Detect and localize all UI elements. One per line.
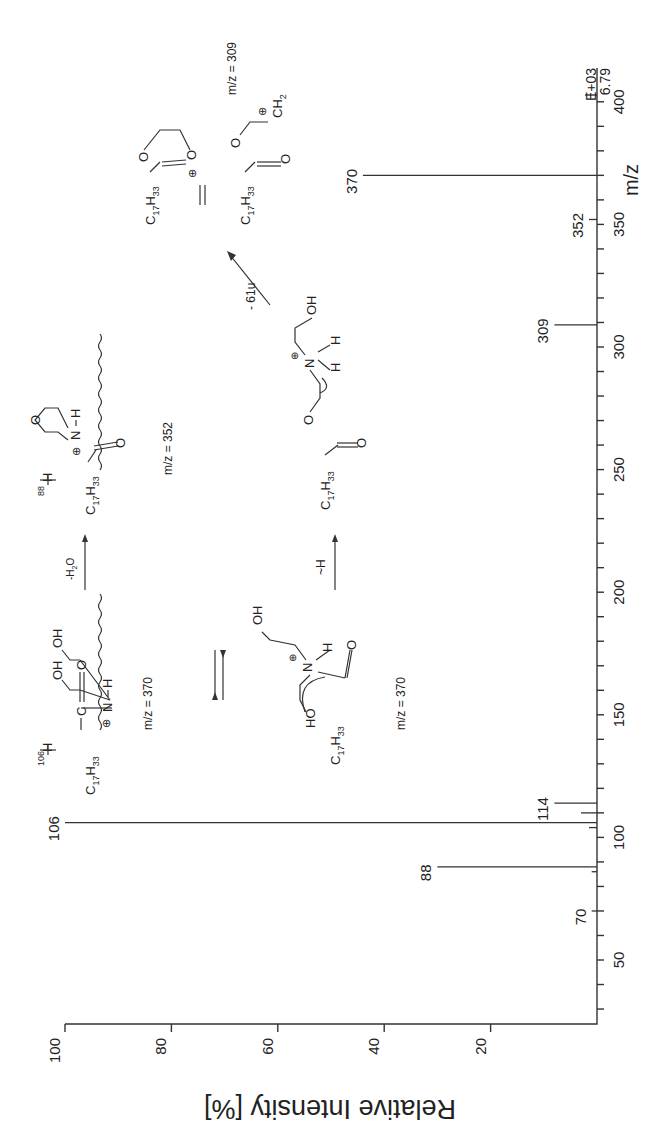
svg-text:O: O	[228, 138, 243, 148]
svg-text:C17H33: C17H33	[143, 186, 161, 225]
mz-tick-label: 50	[610, 952, 627, 969]
svg-text:⊕: ⊕	[100, 719, 112, 728]
svg-text:106: 106	[36, 751, 46, 766]
peak-label: 88	[417, 864, 434, 881]
svg-text:C17H33: C17H33	[238, 186, 256, 225]
scale-value: 6.79	[597, 68, 613, 95]
structure-309-dioxolanium: C17H33 O O ⊕ C17H33 O O CH2 ⊕ m/z = 309	[136, 42, 293, 225]
chain-label: C17H33	[83, 756, 101, 795]
intensity-tick-label: 100	[46, 1038, 63, 1063]
svg-text:CH2: CH2	[270, 94, 288, 118]
svg-text:H: H	[68, 409, 83, 418]
peak-label: 352	[569, 213, 586, 238]
figure: 50100150200250300350400 20406080100 7088…	[0, 0, 658, 1147]
svg-text:C17H33: C17H33	[318, 471, 336, 510]
svg-text:O: O	[113, 438, 128, 448]
peak-label: 106	[45, 816, 62, 841]
structure-ester-ammonium: C17H33 O O N ⊕ H H OH	[289, 296, 369, 511]
mz-tick-label: 300	[610, 334, 627, 359]
svg-text:O: O	[301, 415, 316, 425]
arrow-hydrogen-shift: ~H	[314, 534, 338, 590]
intensity-tick-label: 20	[472, 1038, 489, 1055]
svg-text:⊕: ⊕	[289, 352, 300, 360]
svg-text:N: N	[300, 663, 315, 672]
svg-text:88: 88	[36, 486, 46, 496]
svg-text:OH: OH	[304, 296, 319, 316]
mz-tick-label: 150	[610, 702, 627, 727]
mz-axis-title: m/z	[620, 164, 642, 196]
axis-frame	[65, 68, 597, 1024]
svg-text:O: O	[184, 150, 199, 160]
svg-text:H: H	[320, 643, 335, 652]
svg-text:O: O	[354, 438, 369, 448]
svg-text:⊕: ⊕	[70, 447, 82, 456]
intensity-tick-label: 40	[365, 1038, 382, 1055]
mz-label-352: m/z = 352	[161, 422, 175, 475]
svg-text:O: O	[344, 640, 359, 650]
intensity-tick-label: 80	[152, 1038, 169, 1055]
intensity-tick-label: 60	[259, 1038, 276, 1055]
svg-text:H: H	[328, 363, 343, 372]
mz-label-370b: m/z = 370	[394, 677, 408, 730]
mz-tick-label: 250	[610, 457, 627, 482]
svg-text:H: H	[100, 679, 115, 688]
structure-352-morpholinium: C17H33 O N ⊕ H O H 88 m/z = 352	[28, 334, 175, 515]
svg-text:N: N	[68, 431, 83, 440]
mass-spectrum-chart: 50100150200250300350400 20406080100 7088…	[0, 0, 658, 1147]
mz-label-370: m/z = 370	[141, 677, 155, 730]
svg-text:-H2O: -H2O	[65, 558, 78, 580]
arrow-loss-water: -H2O	[65, 534, 88, 590]
svg-text:N: N	[302, 359, 317, 368]
peak-label: 114	[534, 797, 551, 821]
mz-label-309: m/z = 309	[225, 42, 239, 95]
svg-text:C17H33: C17H33	[83, 476, 101, 515]
svg-text:O: O	[28, 415, 43, 425]
svg-text:H: H	[328, 336, 343, 345]
svg-text:- 61u: - 61u	[244, 283, 258, 310]
svg-text:OH: OH	[250, 606, 265, 626]
peak-label: 370	[343, 169, 360, 194]
svg-text:O: O	[136, 152, 151, 162]
svg-text:C17H33: C17H33	[328, 726, 346, 765]
svg-text:O: O	[278, 154, 293, 164]
mz-tick-label: 350	[610, 212, 627, 237]
peak-label: 309	[534, 318, 551, 343]
mz-tick-label: 100	[610, 825, 627, 850]
intensity-axis: 20406080100	[46, 1024, 491, 1063]
svg-text:N: N	[100, 703, 115, 712]
peak-label: 70	[572, 909, 589, 926]
svg-text:⊕: ⊕	[186, 169, 198, 178]
structure-370-amide: C17H33 C O N ⊕ H H 106 OH OH m/z = 370	[36, 594, 155, 795]
svg-text:OH: OH	[50, 661, 65, 681]
equilibrium-arrow	[212, 650, 226, 700]
mz-tick-label: 200	[610, 580, 627, 605]
svg-text:~H: ~H	[314, 559, 328, 575]
svg-text:⊕: ⊕	[287, 654, 298, 662]
arrow-loss-61u: - 61u	[227, 251, 270, 310]
structure-370-rearranged: C17H33 HO N ⊕ H OH O m/z = 370	[250, 606, 408, 766]
axes	[65, 68, 597, 1024]
svg-text:⊕: ⊕	[256, 107, 268, 116]
svg-text:OH: OH	[50, 629, 65, 649]
peaks: 7088106114309352370	[45, 169, 597, 925]
mz-axis: 50100150200250300350400	[597, 89, 627, 1009]
intensity-axis-title: Relative Intensity [%]	[204, 1094, 456, 1124]
